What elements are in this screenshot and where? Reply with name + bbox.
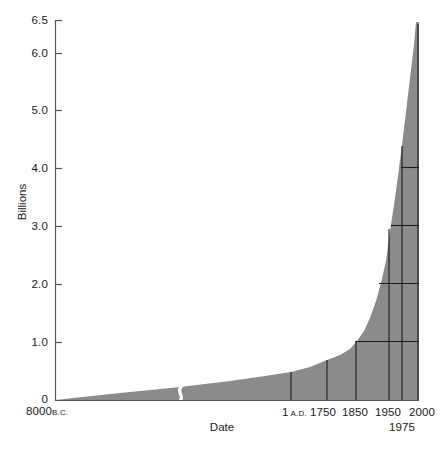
x-axis-title: Date (0, 421, 444, 433)
y-tick-label-0: 0 (41, 393, 48, 405)
y-tick-label-1-0: 1.0 (31, 336, 48, 348)
x-tick-label-1750: 1750 (310, 406, 336, 418)
y-tick-label-5-0: 5.0 (31, 104, 48, 116)
y-tick-label-2-0: 2.0 (31, 278, 48, 290)
x-tick-1ad-year: 1 (282, 406, 289, 418)
y-tick-label-6-0: 6.0 (31, 47, 48, 59)
x-tick-8000-year: 8000 (26, 405, 52, 417)
y-axis-title: Billions (16, 162, 28, 242)
x-tick-1ad-era: A.D. (291, 409, 307, 418)
chart-plot-area (0, 0, 444, 450)
x-tick-label-1950: 1950 (375, 406, 401, 418)
x-tick-8000-era: B.C. (52, 408, 68, 417)
population-growth-chart: 6.5 6.0 5.0 4.0 3.0 2.0 1.0 0 Billions 8… (0, 0, 444, 450)
y-tick-label-4-0: 4.0 (31, 162, 48, 174)
x-tick-label-1ad: 1A.D. (282, 406, 307, 418)
axis-break-squiggle (179, 374, 182, 401)
x-tick-label-8000bc: 8000B.C. (26, 405, 68, 417)
y-tick-label-3-0: 3.0 (31, 220, 48, 232)
population-area-fill (55, 22, 419, 400)
y-tick-label-6-5: 6.5 (31, 14, 48, 26)
x-tick-label-2000: 2000 (409, 406, 435, 418)
x-tick-label-1850: 1850 (342, 406, 368, 418)
